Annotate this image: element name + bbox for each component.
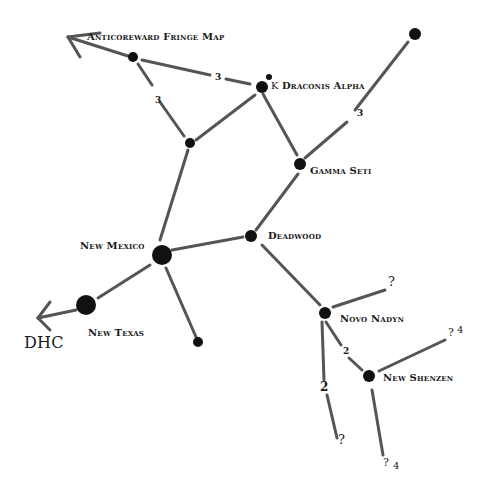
edge-label: 2 <box>320 380 328 394</box>
unknown-route: ? <box>383 456 389 469</box>
unknown-route-count: 4 <box>457 324 463 335</box>
unknown-route-count: 4 <box>393 460 399 471</box>
draconis-prefix: K <box>271 80 279 91</box>
route-lines <box>0 0 490 497</box>
system-gamma-seti[interactable]: Gamma Seti <box>310 165 371 176</box>
edge-label: 3 <box>215 72 221 82</box>
star-map: Anticoreward Fringe Map K Draconis Alpha… <box>0 0 490 497</box>
system-new-mexico[interactable]: New Mexico <box>80 240 145 251</box>
unknown-route: ? <box>338 432 345 447</box>
unknown-route: ? <box>448 326 454 339</box>
edge-label: 3 <box>155 95 161 105</box>
system-novo-nadyn[interactable]: Novo Nadyn <box>340 313 404 324</box>
system-dhc[interactable]: DHC <box>24 333 64 352</box>
unknown-route: ? <box>388 274 395 289</box>
system-new-texas[interactable]: New Texas <box>88 327 144 338</box>
edge-label: 3 <box>357 108 363 118</box>
system-draconis-alpha[interactable]: Draconis Alpha <box>282 80 365 91</box>
edge-label: 2 <box>343 346 349 356</box>
system-new-shenzen[interactable]: New Shenzen <box>383 372 453 383</box>
map-title: Anticoreward Fringe Map <box>87 31 224 42</box>
system-deadwood[interactable]: Deadwood <box>268 230 321 241</box>
